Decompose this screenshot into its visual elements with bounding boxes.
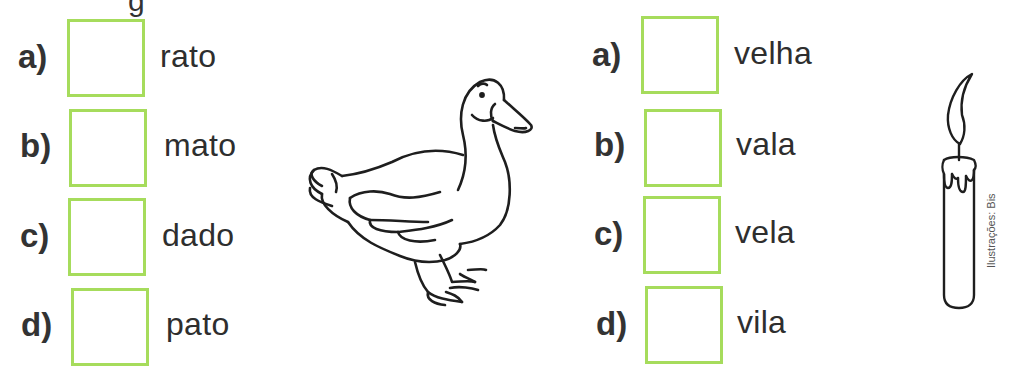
answer-box-right-c[interactable] <box>643 196 721 274</box>
heading-fragment: g <box>128 0 145 16</box>
answer-box-left-c[interactable] <box>68 198 146 276</box>
item-letter-c: c) <box>594 217 623 250</box>
item-word-vila: vila <box>737 306 786 338</box>
item-letter-b: b) <box>20 129 51 162</box>
item-letter-d: d) <box>21 308 52 341</box>
item-letter-a: a) <box>592 38 621 71</box>
answer-box-left-d[interactable] <box>71 288 149 366</box>
candle-illustration <box>930 70 990 310</box>
answer-box-right-b[interactable] <box>644 109 722 187</box>
answer-box-right-a[interactable] <box>641 16 719 94</box>
item-word-pato: pato <box>166 308 229 340</box>
duck-illustration <box>300 70 540 310</box>
item-letter-d: d) <box>596 307 627 340</box>
item-letter-c: c) <box>20 219 49 252</box>
item-word-rato: rato <box>160 40 216 72</box>
item-word-vala: vala <box>736 128 796 160</box>
item-word-velha: velha <box>734 37 812 69</box>
item-word-vela: vela <box>735 216 795 248</box>
item-letter-b: b) <box>594 128 625 161</box>
answer-box-right-d[interactable] <box>645 286 723 364</box>
item-word-mato: mato <box>164 129 236 161</box>
illustration-credit: Ilustrações: Bis <box>986 193 997 268</box>
item-word-dado: dado <box>162 219 234 251</box>
item-letter-a: a) <box>18 40 47 73</box>
answer-box-left-b[interactable] <box>69 109 147 187</box>
answer-box-left-a[interactable] <box>67 19 145 97</box>
